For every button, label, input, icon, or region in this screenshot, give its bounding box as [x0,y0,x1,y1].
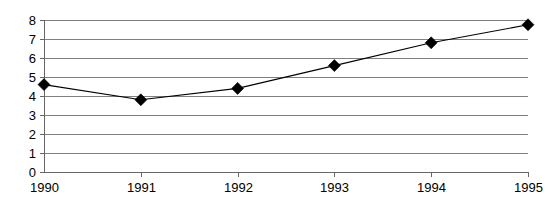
y-tick-label-7: 7 [29,32,36,47]
y-tick-label-3: 3 [29,108,36,123]
y-tick-label-0: 0 [29,165,36,180]
y-tick-label-1: 1 [29,146,36,161]
series-line-0 [44,25,528,100]
chart-canvas: 012345678199019911992199319941995 [0,0,557,220]
x-tick-label-1995: 1995 [514,180,543,195]
y-tick-label-6: 6 [29,51,36,66]
x-tick-label-1994: 1994 [417,180,446,195]
x-tick-label-1990: 1990 [30,180,59,195]
y-tick-label-2: 2 [29,127,36,142]
x-tick-label-1992: 1992 [224,180,253,195]
y-tick-label-8: 8 [29,13,36,28]
line-chart: 012345678199019911992199319941995 [0,0,557,220]
data-point-1994 [425,37,437,49]
y-tick-label-4: 4 [29,89,36,104]
data-point-1991 [135,94,147,106]
data-point-1992 [232,82,244,94]
y-tick-label-5: 5 [29,70,36,85]
x-tick-label-1991: 1991 [127,180,156,195]
data-point-1993 [328,60,340,72]
x-tick-label-1993: 1993 [320,180,349,195]
data-point-1990 [38,79,50,91]
